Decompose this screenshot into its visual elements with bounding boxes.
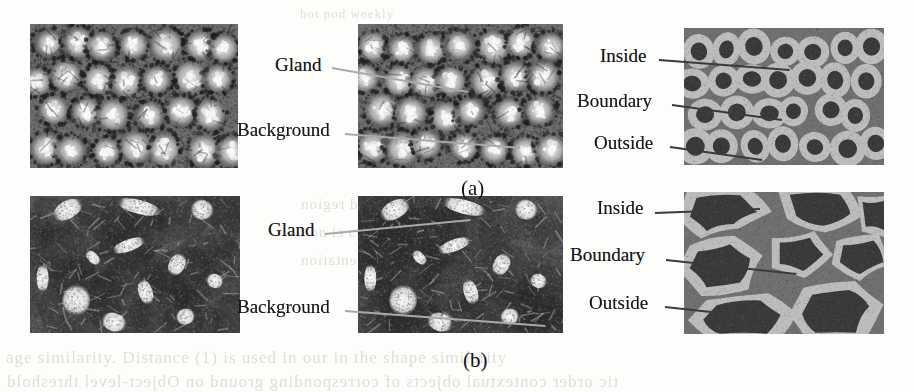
label-outside-a: Outside <box>594 133 653 152</box>
label-boundary-b: Boundary <box>570 245 645 264</box>
bleed-bottom-1: age similarity. Distance (1) is used in … <box>6 348 507 368</box>
annotated-histology-image-b <box>358 196 563 333</box>
segmentation-map-a <box>684 28 884 165</box>
panel-b-caption: (b) <box>463 350 488 371</box>
original-histology-image-a <box>30 24 238 168</box>
bleed-top-1: hot pod weekly <box>300 6 394 22</box>
label-background-a: Background <box>237 120 330 139</box>
panel-a-caption: (a) <box>461 178 484 199</box>
label-gland-b: Gland <box>268 220 314 239</box>
label-inside-a: Inside <box>600 46 646 65</box>
segmentation-map-b <box>684 192 884 334</box>
label-gland-a: Gland <box>275 55 321 74</box>
label-boundary-a: Boundary <box>577 91 652 110</box>
label-inside-b: Inside <box>597 198 643 217</box>
bleed-bottom-2: tic order contextual objects of correspo… <box>6 372 618 392</box>
annotated-histology-image-a <box>358 24 563 168</box>
original-histology-image-b <box>30 196 240 333</box>
label-outside-b: Outside <box>589 293 648 312</box>
label-background-b: Background <box>237 297 330 316</box>
figure-container: hot pod weeklythe obtained regiontion is… <box>0 0 914 392</box>
